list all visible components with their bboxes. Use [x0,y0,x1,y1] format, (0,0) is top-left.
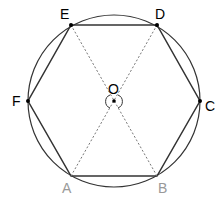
point-D [155,23,159,27]
label-C: C [205,98,215,114]
label-A: A [62,180,72,196]
label-D: D [155,6,165,22]
point-F [26,99,30,103]
hexagon-diagram: O E D F C A B [0,0,222,215]
label-B: B [158,180,167,196]
center-point [112,99,116,103]
point-E [69,23,73,27]
label-O: O [108,81,119,97]
label-F: F [12,93,21,109]
point-C [198,99,202,103]
label-E: E [60,6,69,22]
